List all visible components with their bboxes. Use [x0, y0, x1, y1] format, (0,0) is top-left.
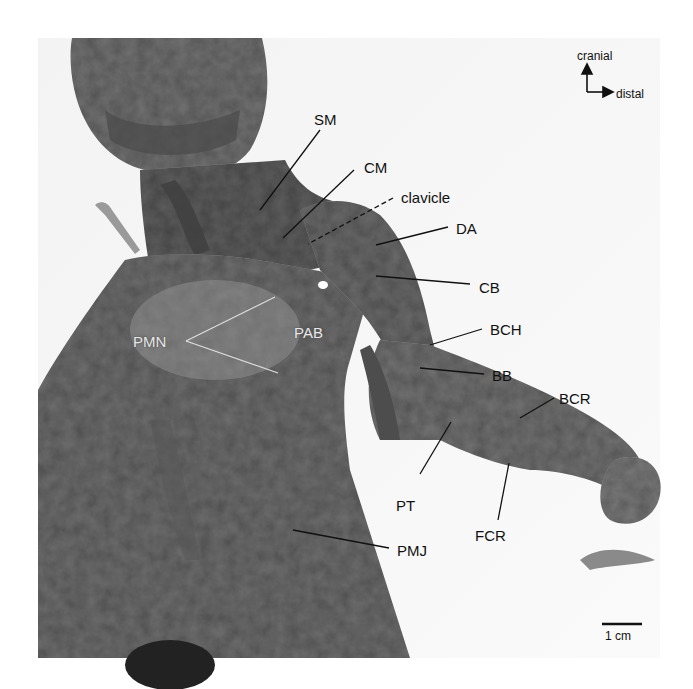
label-PT: PT: [396, 498, 415, 513]
scale-bar-label: 1 cm: [605, 629, 631, 643]
label-PMJ: PMJ: [397, 543, 427, 558]
label-clavicle: clavicle: [401, 190, 450, 205]
label-CM: CM: [364, 160, 387, 175]
specimen-photo: [0, 0, 693, 689]
label-DA: DA: [456, 221, 477, 236]
orientation-cranial: cranial: [577, 50, 612, 62]
label-BCR: BCR: [559, 391, 591, 406]
label-PAB: PAB: [294, 325, 323, 340]
label-PMN: PMN: [133, 334, 166, 349]
orientation-distal: distal: [616, 88, 644, 100]
label-CB: CB: [479, 280, 500, 295]
label-BB: BB: [492, 368, 512, 383]
label-SM: SM: [314, 112, 337, 127]
label-FCR: FCR: [475, 528, 506, 543]
label-BCH: BCH: [490, 322, 522, 337]
